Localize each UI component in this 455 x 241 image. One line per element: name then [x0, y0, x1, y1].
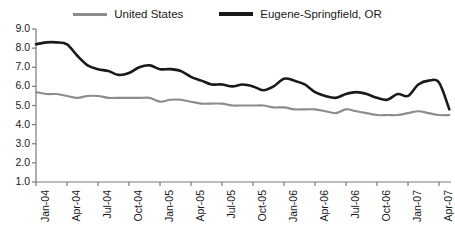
- x-axis-tick-label: Jan-05: [164, 190, 175, 222]
- x-axis-tick-label: Jul-06: [350, 190, 361, 219]
- legend-label-eugene-springfield: Eugene-Springfield, OR: [260, 8, 381, 20]
- x-axis-tick-label: Apr-04: [71, 190, 82, 222]
- unemployment-rate-line-chart: United States Eugene-Springfield, OR 9.0…: [0, 0, 455, 241]
- legend-label-united-states: United States: [114, 8, 183, 20]
- x-axis-tick-label: Jan-06: [288, 190, 299, 222]
- legend-item-eugene-springfield: Eugene-Springfield, OR: [219, 8, 381, 20]
- plot-area: [0, 24, 455, 189]
- x-axis-tick-label: Oct-05: [257, 190, 268, 222]
- x-axis-tick-label: Oct-04: [133, 190, 144, 222]
- chart-plot-svg: [0, 24, 455, 189]
- x-axis-tick-label: Apr-06: [319, 190, 330, 222]
- x-axis-tick-label: Jan-04: [40, 190, 51, 222]
- chart-legend: United States Eugene-Springfield, OR: [0, 4, 455, 24]
- line-swatch-black-icon: [219, 12, 253, 16]
- x-axis-tick-label: Apr-05: [195, 190, 206, 222]
- x-axis-tick-labels: Jan-04Apr-04Jul-04Oct-04Jan-05Apr-05Jul-…: [0, 190, 455, 241]
- legend-item-united-states: United States: [73, 8, 183, 20]
- x-axis-tick-label: Apr-07: [443, 190, 454, 222]
- x-axis-tick-label: Jan-07: [412, 190, 423, 222]
- series-line-eugene-springfield: [36, 42, 449, 109]
- series-line-united-states: [36, 92, 449, 115]
- x-axis-tick-label: Jul-04: [102, 190, 113, 219]
- x-axis-tick-label: Jul-05: [226, 190, 237, 219]
- x-axis-ticks: [36, 182, 439, 186]
- x-axis-tick-label: Oct-06: [381, 190, 392, 222]
- line-swatch-gray-icon: [73, 13, 107, 16]
